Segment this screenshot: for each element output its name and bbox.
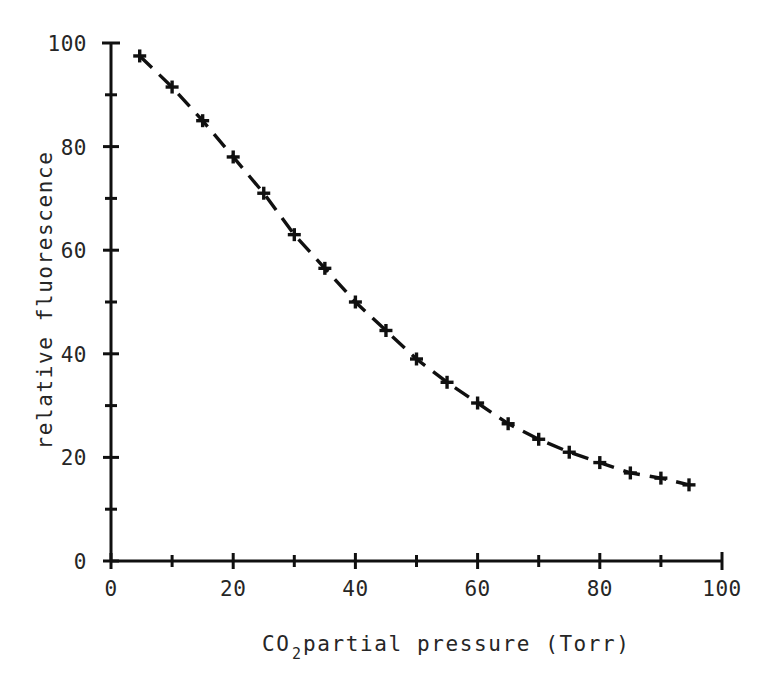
y-tick-label: 0 [74, 550, 87, 574]
chart-canvas: 020406080100 020406080100 relative fluor… [0, 0, 776, 693]
x-tick-label: 100 [702, 577, 741, 601]
y-tick-label: 80 [61, 136, 87, 160]
x-axis-title-subscript: 2 [292, 645, 301, 663]
x-axis-title-rest: partial pressure (Torr) [303, 632, 631, 656]
x-tick-label: 40 [342, 577, 368, 601]
x-tick-label: 20 [220, 577, 246, 601]
y-tick-label: 20 [61, 446, 87, 470]
x-tick-label: 60 [464, 577, 490, 601]
y-tick-label: 40 [61, 343, 87, 367]
x-axis-title-base: CO [262, 632, 291, 656]
y-axis-title: relative fluorescence [33, 150, 57, 449]
y-tick-label: 60 [61, 239, 87, 263]
x-tick-label: 0 [104, 577, 117, 601]
x-tick-label: 80 [587, 577, 613, 601]
y-tick-label: 100 [48, 32, 87, 56]
figure-root: 020406080100 020406080100 relative fluor… [0, 0, 776, 693]
y-axis-title-text: relative fluorescence [33, 150, 57, 449]
